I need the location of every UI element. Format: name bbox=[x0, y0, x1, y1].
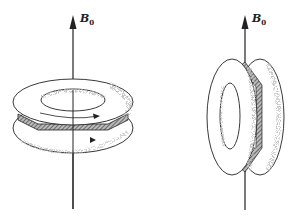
left-b-symbol: B bbox=[80, 12, 89, 25]
diagram-canvas bbox=[0, 0, 298, 220]
right-axis-arrow-icon bbox=[242, 15, 249, 29]
right-b-subscript: 0 bbox=[261, 18, 266, 27]
right-b0-label: B0 bbox=[252, 12, 266, 27]
left-b0-label: B0 bbox=[80, 12, 94, 27]
right-b-symbol: B bbox=[252, 12, 261, 25]
left-axis-arrow-icon bbox=[70, 15, 77, 29]
right-torus-figure bbox=[207, 15, 284, 210]
left-torus-figure bbox=[13, 15, 133, 209]
left-b-subscript: 0 bbox=[89, 18, 94, 27]
